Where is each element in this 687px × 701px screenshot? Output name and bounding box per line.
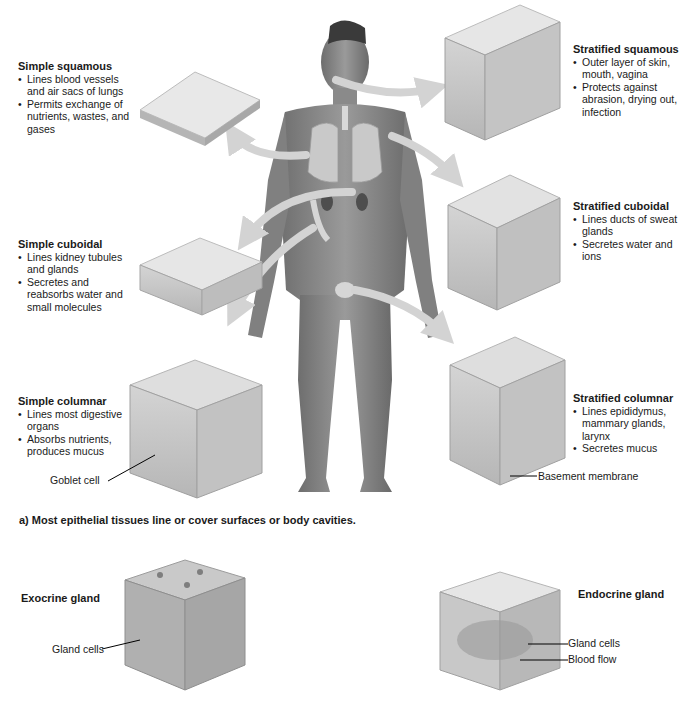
stratified-columnar-bullet-1: Lines epididymus, mammary glands, larynx xyxy=(573,405,685,443)
stratified-columnar-block xyxy=(450,337,565,485)
stratified-squamous-bullet-1: Outer layer of skin, mouth, vagina xyxy=(573,56,685,81)
stratified-squamous-label: Stratified squamous Outer layer of skin,… xyxy=(573,43,685,118)
stratified-squamous-block xyxy=(445,5,560,140)
exocrine-gland-block xyxy=(125,560,245,690)
stratified-squamous-bullet-2: Protects against abrasion, drying out, i… xyxy=(573,81,685,119)
simple-squamous-label: Simple squamous Lines blood vessels and … xyxy=(18,60,133,135)
endocrine-gland-cells-callout: Gland cells xyxy=(568,637,620,649)
simple-squamous-bullet-2: Permits exchange of nutrients, wastes, a… xyxy=(18,98,133,136)
stratified-columnar-title: Stratified columnar xyxy=(573,392,685,405)
goblet-cell-callout: Goblet cell xyxy=(50,474,100,486)
simple-squamous-block xyxy=(140,72,260,146)
basement-membrane-callout: Basement membrane xyxy=(538,470,638,482)
stratified-cuboidal-bullet-1: Lines ducts of sweat glands xyxy=(573,213,683,238)
simple-columnar-label: Simple columnar Lines most digestive org… xyxy=(18,395,128,458)
simple-squamous-title: Simple squamous xyxy=(18,60,133,73)
stratified-cuboidal-label: Stratified cuboidal Lines ducts of sweat… xyxy=(573,200,683,263)
simple-columnar-block xyxy=(130,360,262,498)
stratified-columnar-label: Stratified columnar Lines epididymus, ma… xyxy=(573,392,685,455)
endocrine-gland-title: Endocrine gland xyxy=(578,588,664,600)
stratified-cuboidal-block xyxy=(448,175,560,310)
simple-cuboidal-bullet-2: Secretes and reabsorbs water and small m… xyxy=(18,276,128,314)
exocrine-gland-title: Exocrine gland xyxy=(21,592,100,604)
simple-columnar-bullet-1: Lines most digestive organs xyxy=(18,408,128,433)
simple-cuboidal-bullet-1: Lines kidney tubules and glands xyxy=(18,251,128,276)
simple-cuboidal-label: Simple cuboidal Lines kidney tubules and… xyxy=(18,238,128,313)
blood-flow-callout: Blood flow xyxy=(568,653,616,665)
simple-columnar-bullet-2: Absorbs nutrients, produces mucus xyxy=(18,433,128,458)
exocrine-gland-cells-callout: Gland cells xyxy=(52,643,104,655)
simple-squamous-bullet-1: Lines blood vessels and air sacs of lung… xyxy=(18,73,133,98)
stratified-cuboidal-bullet-2: Secretes water and ions xyxy=(573,238,683,263)
simple-columnar-title: Simple columnar xyxy=(18,395,128,408)
stratified-columnar-bullet-2: Secretes mucus xyxy=(573,442,685,455)
stratified-squamous-title: Stratified squamous xyxy=(573,43,685,56)
stratified-cuboidal-title: Stratified cuboidal xyxy=(573,200,683,213)
figure-caption: a) Most epithelial tissues line or cover… xyxy=(19,514,356,526)
simple-cuboidal-title: Simple cuboidal xyxy=(18,238,128,251)
endocrine-gland-block xyxy=(440,572,560,690)
